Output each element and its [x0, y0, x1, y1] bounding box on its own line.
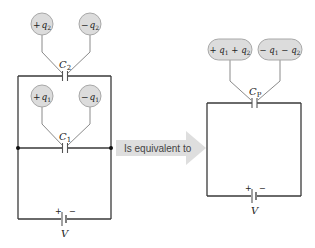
- junction-dot-right: [109, 146, 113, 150]
- charge-label-minus-q1-minus-q2: − q1 − q2: [260, 45, 301, 56]
- capacitor-cp-label: CP: [249, 86, 262, 99]
- capacitor-c2-label: C2: [59, 59, 71, 72]
- arrow-label: Is equivalent to: [124, 143, 192, 154]
- parallel-capacitor-diagram: C2 +q2 −q2 C1 +q1 −q1 +: [0, 0, 315, 248]
- equivalence-arrow: Is equivalent to: [116, 131, 206, 165]
- capacitor-c2: C2 +q2 −q2: [31, 13, 101, 81]
- battery-left-voltage-label: V: [61, 228, 70, 239]
- capacitor-cp: CP + q1 + q2 − q1 − q2: [208, 39, 302, 108]
- battery-right-minus: −: [259, 184, 266, 193]
- battery-left: + − V: [55, 207, 76, 239]
- battery-right-voltage-label: V: [251, 205, 260, 216]
- charge-label-plus-q1-plus-q2: + q1 + q2: [210, 45, 251, 56]
- battery-left-minus: −: [69, 207, 76, 216]
- right-circuit: CP + q1 + q2 − q1 − q2 + − V: [207, 39, 302, 216]
- battery-right: + − V: [245, 184, 266, 216]
- left-circuit: C2 +q2 −q2 C1 +q1 −q1 +: [16, 13, 113, 239]
- capacitor-c1: C1 +q1 −q1: [31, 85, 101, 153]
- capacitor-c1-label: C1: [59, 131, 71, 144]
- junction-dot-left: [16, 146, 20, 150]
- battery-right-plus: +: [245, 184, 252, 193]
- battery-left-plus: +: [55, 207, 62, 216]
